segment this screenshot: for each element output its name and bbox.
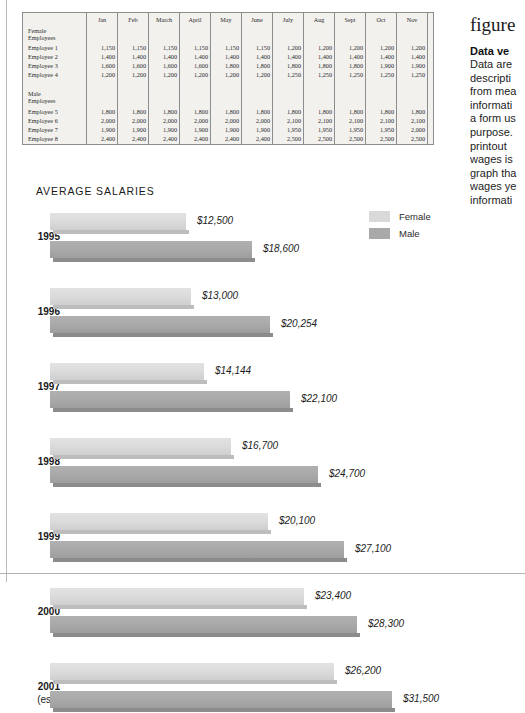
table-column-header: April bbox=[180, 13, 211, 26]
table-cell: 2,400 bbox=[118, 135, 149, 144]
table-cell: 1,900 bbox=[87, 126, 118, 135]
figure-text-line: purpose. bbox=[470, 126, 525, 140]
figure-text-line: descripti bbox=[470, 72, 525, 86]
table-cell: 1,200 bbox=[211, 71, 242, 80]
table-group-header-cell bbox=[149, 26, 180, 45]
table-cell: 1,150 bbox=[211, 44, 242, 53]
table-row-label: Employee 4 bbox=[23, 71, 87, 80]
table-row: Employee 82,4002,4002,4002,4002,4002,400… bbox=[23, 135, 434, 144]
table-cell: 1,600 bbox=[180, 62, 211, 71]
chart-bar-female bbox=[50, 513, 268, 530]
table-spacer-cell bbox=[23, 80, 87, 89]
table-group-label-line1: Female bbox=[28, 27, 84, 34]
figure-text-line: informati bbox=[470, 194, 525, 208]
table-cell: 1,400 bbox=[304, 53, 335, 62]
table-cell: 1,400 bbox=[273, 53, 304, 62]
legend-item-male: Male bbox=[369, 225, 431, 242]
figure-text-line: informati bbox=[470, 99, 525, 113]
page-bottom-rule bbox=[0, 573, 525, 574]
chart-bar-value-label: $22,100 bbox=[301, 393, 337, 404]
table-column-header: Dec bbox=[428, 13, 435, 26]
table-cell: 1,400 bbox=[428, 53, 435, 62]
table-group-header-row: MaleEmployees bbox=[23, 89, 434, 108]
table-cell: 1,800 bbox=[211, 108, 242, 117]
chart-bar-value-label: $31,500 bbox=[403, 693, 439, 704]
table-cell: 1,400 bbox=[242, 53, 273, 62]
table: JanFebMarchAprilMayJuneJulyAugSeptOctNov… bbox=[23, 13, 434, 144]
table-group-header-cell bbox=[242, 26, 273, 45]
table-spacer-cell bbox=[335, 80, 366, 89]
table-spacer-cell bbox=[397, 80, 428, 89]
table-group-header-cell bbox=[366, 89, 397, 108]
table-cell: 1,400 bbox=[149, 53, 180, 62]
table-cell: 1,800 bbox=[304, 62, 335, 71]
table-column-header: Nov bbox=[397, 13, 428, 26]
table-cell: 1,950 bbox=[273, 126, 304, 135]
figure-text-line: a form us bbox=[470, 112, 525, 126]
table-row-label: Employee 7 bbox=[23, 126, 87, 135]
table-cell: 1,800 bbox=[211, 62, 242, 71]
chart-bar-male bbox=[50, 466, 318, 483]
figure-caption-word: figure bbox=[470, 14, 525, 36]
table-spacer-cell bbox=[149, 80, 180, 89]
table-group-header-cell bbox=[335, 89, 366, 108]
table-cell: 1,200 bbox=[304, 44, 335, 53]
table-cell: 1,150 bbox=[118, 44, 149, 53]
table-cell: 1,150 bbox=[87, 44, 118, 53]
table-cell: 1,250 bbox=[335, 71, 366, 80]
table-cell: 2,000 bbox=[211, 117, 242, 126]
table-cell: 2,000 bbox=[180, 117, 211, 126]
figure-text-line: printout bbox=[470, 140, 525, 154]
table-group-header-cell bbox=[211, 26, 242, 45]
figure-text-heading: Data ve bbox=[470, 44, 525, 58]
table-group-header-cell bbox=[335, 26, 366, 45]
table-row: Employee 62,0002,0002,0002,0002,0002,000… bbox=[23, 117, 434, 126]
table-row-label: Employee 8 bbox=[23, 135, 87, 144]
table-spacer-cell bbox=[366, 80, 397, 89]
table-cell: 1,800 bbox=[366, 108, 397, 117]
table-cell: 1,900 bbox=[242, 126, 273, 135]
table-row: Employee 51,8001,8001,8001,8001,8001,800… bbox=[23, 108, 434, 117]
chart-bar-female bbox=[50, 588, 304, 605]
table-cell: 1,900 bbox=[180, 126, 211, 135]
table-cell: 1,800 bbox=[242, 108, 273, 117]
chart-bar-value-label: $24,700 bbox=[329, 468, 365, 479]
table-group-label-line2: Employees bbox=[28, 34, 84, 41]
table-cell: 2,100 bbox=[397, 117, 428, 126]
table-group-header-cell bbox=[149, 89, 180, 108]
table-spacer-cell bbox=[273, 80, 304, 89]
figure-text-line: wages is bbox=[470, 153, 525, 167]
table-group-header-cell bbox=[304, 89, 335, 108]
table-cell: 2,500 bbox=[335, 135, 366, 144]
table-spacer-cell bbox=[304, 80, 335, 89]
table-spacer-cell bbox=[428, 80, 435, 89]
chart-bar-value-label: $14,144 bbox=[215, 365, 251, 376]
table-cell: 1,200 bbox=[273, 44, 304, 53]
table-cell: 1,150 bbox=[242, 44, 273, 53]
table-cell: 1,400 bbox=[335, 53, 366, 62]
table-cell: 1,200 bbox=[87, 71, 118, 80]
chart-bar-value-label: $13,000 bbox=[202, 290, 238, 301]
table-group-header-cell bbox=[273, 26, 304, 45]
table-row: Employee 41,2001,2001,2001,2001,2001,200… bbox=[23, 71, 434, 80]
table-column-header: Sept bbox=[335, 13, 366, 26]
table-group-header-cell bbox=[180, 26, 211, 45]
table-cell: 2,500 bbox=[428, 135, 435, 144]
table-cell: 1,800 bbox=[397, 108, 428, 117]
table-column-header: May bbox=[211, 13, 242, 26]
table-cell: 1,950 bbox=[335, 126, 366, 135]
table-spacer-cell bbox=[87, 80, 118, 89]
table-spacer-cell bbox=[211, 80, 242, 89]
table-cell: 1,200 bbox=[366, 44, 397, 53]
table-column-header: Oct bbox=[366, 13, 397, 26]
table-cell: 1,950 bbox=[304, 126, 335, 135]
table-cell: 1,600 bbox=[118, 62, 149, 71]
table-cell: 1,150 bbox=[149, 44, 180, 53]
chart-bar-female bbox=[50, 663, 334, 680]
table-cell: 1,250 bbox=[428, 71, 435, 80]
legend-swatch-male-icon bbox=[369, 228, 390, 239]
chart-legend: Female Male bbox=[369, 208, 431, 242]
table-cell: 1,250 bbox=[397, 71, 428, 80]
table-corner-cell bbox=[23, 13, 87, 26]
table-column-header: March bbox=[149, 13, 180, 26]
